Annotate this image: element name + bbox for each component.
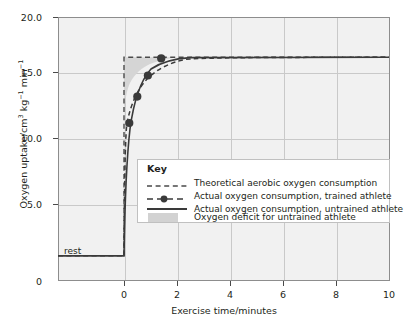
x-axis-title: Exercise time/minutes (58, 305, 390, 316)
y-axis-title: Oxygen uptake/cm3 kg−1 min−1 (17, 14, 29, 254)
y-axis-title-mid: kg (18, 100, 29, 115)
ytick-mark-10 (53, 138, 58, 139)
xtick-mark-6 (283, 281, 284, 286)
chart-legend: Key Theoretical aerobic oxygen consumpti… (137, 159, 390, 223)
chart-curves (58, 17, 390, 281)
ytick-mark-15 (53, 72, 58, 73)
xtick-label-4: 4 (218, 290, 242, 300)
data-point-trained (125, 119, 133, 127)
chart-figure: rest 20.0 15.0 10.0 5.0 0 0 2 4 6 8 10 E… (0, 0, 411, 328)
dashed-line-with-dot-icon (145, 190, 189, 202)
y-axis-title-base: Oxygen uptake/cm (18, 119, 29, 209)
rest-annotation: rest (64, 246, 81, 256)
y-axis-title-sup2: −1 (17, 90, 25, 100)
xtick-mark-4 (230, 281, 231, 286)
xtick-label-0: 0 (112, 290, 136, 300)
legend-label-trained: Actual oxygen consumption, trained athle… (194, 191, 392, 201)
y-axis-title-mid2: min (18, 69, 29, 90)
data-point-trained (133, 93, 141, 101)
xtick-label-6: 6 (271, 290, 295, 300)
dashed-line-icon (145, 177, 189, 189)
legend-label-deficit: Oxygen deficit for untrained athlete (194, 212, 356, 222)
data-point-trained (157, 54, 165, 62)
ytick-mark-20 (53, 17, 58, 18)
xtick-mark-2 (177, 281, 178, 286)
xtick-label-2: 2 (165, 290, 189, 300)
xtick-label-10: 10 (377, 290, 401, 300)
data-point-trained (144, 71, 152, 79)
xtick-mark-8 (336, 281, 337, 286)
y-axis-title-sup3: −1 (17, 60, 25, 70)
grey-swatch-icon (145, 211, 189, 223)
ytick-label-0: 0 (8, 277, 42, 287)
theoretical-aerobic-line (58, 57, 389, 256)
y-axis-title-sup1: 3 (17, 114, 25, 118)
oxygen-deficit-area (124, 57, 389, 256)
xtick-label-8: 8 (324, 290, 348, 300)
ytick-mark-5 (53, 204, 58, 205)
legend-title: Key (147, 163, 167, 174)
untrained-athlete-curve (58, 57, 389, 256)
legend-label-theoretical: Theoretical aerobic oxygen consumption (194, 178, 377, 188)
xtick-mark-0 (124, 281, 125, 286)
trained-athlete-curve (124, 57, 389, 256)
